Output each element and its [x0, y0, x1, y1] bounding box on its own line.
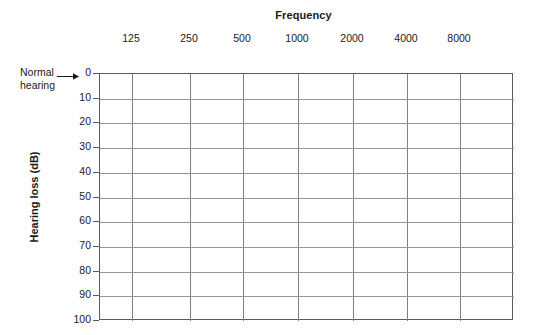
gridline-horizontal: [100, 296, 514, 297]
y-tick-label: 80: [59, 264, 91, 276]
audiogram-chart: Frequency Hearing loss (dB) Normal heari…: [0, 0, 541, 335]
x-tick-label: 1000: [274, 32, 320, 44]
x-tick-label: 8000: [436, 32, 482, 44]
y-tick-label: 90: [59, 288, 91, 300]
y-axis-title: Hearing loss (dB): [28, 151, 40, 242]
gridline-horizontal: [100, 198, 514, 199]
y-tick-label: 30: [59, 140, 91, 152]
gridline-horizontal: [100, 99, 514, 100]
y-tick-label: 20: [59, 115, 91, 127]
y-tick-label: 60: [59, 214, 91, 226]
y-tick-label: 70: [59, 239, 91, 251]
y-tick-label: 100: [59, 313, 91, 325]
x-tick-label: 250: [166, 32, 212, 44]
x-tick-label: 4000: [383, 32, 429, 44]
x-tick-label: 2000: [329, 32, 375, 44]
x-tick-label: 125: [108, 32, 154, 44]
gridline-horizontal: [100, 148, 514, 149]
x-tick-label: 500: [219, 32, 265, 44]
y-tick-label: 40: [59, 165, 91, 177]
y-tick-label: 0: [59, 66, 91, 78]
y-tick-label: 10: [59, 91, 91, 103]
plot-area: [99, 73, 513, 320]
y-tick-mark: [93, 320, 99, 321]
gridline-horizontal: [100, 272, 514, 273]
y-tick-label: 50: [59, 190, 91, 202]
gridline-horizontal: [100, 247, 514, 248]
chart-title: Frequency: [33, 9, 541, 21]
gridline-horizontal: [100, 222, 514, 223]
gridline-horizontal: [100, 173, 514, 174]
gridline-horizontal: [100, 123, 514, 124]
